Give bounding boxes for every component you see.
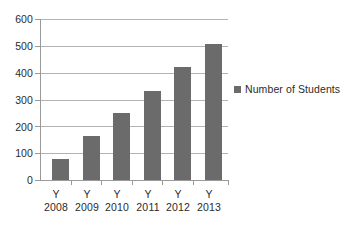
x-axis-category-line2: 2008 — [41, 201, 71, 214]
x-axis-category-label: Y 2009 — [72, 188, 102, 214]
x-axis-category-line2: 2010 — [102, 201, 132, 214]
gridline — [40, 126, 228, 127]
x-axis-category-line1: Y — [41, 188, 71, 201]
bar — [83, 136, 100, 180]
x-axis-category-line1: Y — [102, 188, 132, 201]
x-axis-category-line2: 2009 — [72, 201, 102, 214]
x-axis-tick — [71, 181, 72, 185]
legend: Number of Students — [234, 83, 340, 95]
x-axis-tick — [228, 181, 229, 185]
y-axis-tick-label: 300 — [3, 95, 33, 105]
x-axis-tick — [193, 181, 194, 185]
gridline — [40, 19, 228, 20]
x-axis-category-line2: 2012 — [163, 201, 193, 214]
y-axis-line — [40, 19, 41, 181]
bar — [144, 91, 161, 180]
gridline — [40, 46, 228, 47]
plot-area — [40, 19, 228, 180]
bar — [174, 67, 191, 180]
x-axis-tick — [101, 181, 102, 185]
x-axis-category-label: Y 2012 — [163, 188, 193, 214]
y-axis-tick-label: 0 — [3, 175, 33, 185]
x-axis-category-line1: Y — [163, 188, 193, 201]
gridline — [40, 100, 228, 101]
gridline — [40, 153, 228, 154]
bar — [113, 113, 130, 180]
y-axis-tick-label: 100 — [3, 148, 33, 158]
x-axis-category-label: Y 2008 — [41, 188, 71, 214]
y-axis-tick-label: 500 — [3, 41, 33, 51]
legend-entry-label: Number of Students — [245, 83, 340, 95]
x-axis-category-line2: 2011 — [133, 201, 163, 214]
x-axis-category-line1: Y — [72, 188, 102, 201]
x-axis-line — [40, 180, 229, 181]
x-axis-category-label: Y 2010 — [102, 188, 132, 214]
bar — [205, 44, 222, 180]
x-axis-category-label: Y 2013 — [194, 188, 224, 214]
x-axis-category-line2: 2013 — [194, 201, 224, 214]
x-axis-category-line1: Y — [133, 188, 163, 201]
x-axis-category-line1: Y — [194, 188, 224, 201]
bar — [52, 159, 69, 180]
x-axis-category-label: Y 2011 — [133, 188, 163, 214]
y-axis-tick-label: 600 — [3, 14, 33, 24]
x-axis-tick — [132, 181, 133, 185]
bar-chart: 600 500 400 300 200 100 0 Y 2008 Y — [0, 0, 346, 229]
gridline — [40, 73, 228, 74]
y-axis-tick-label: 200 — [3, 122, 33, 132]
x-axis-tick — [162, 181, 163, 185]
y-axis-tick-label: 400 — [3, 68, 33, 78]
legend-swatch-icon — [234, 86, 241, 93]
